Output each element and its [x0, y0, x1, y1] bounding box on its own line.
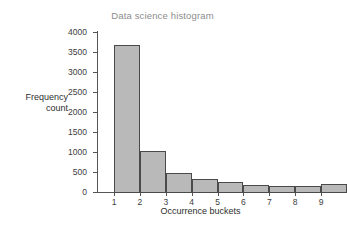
y-axis-tick-label: 3500 [68, 47, 87, 57]
y-axis-tick: 1500 [93, 132, 97, 133]
y-axis-tick: 0 [93, 192, 97, 193]
y-axis-title-line-1: Frequency [6, 92, 68, 103]
histogram-bar [321, 184, 347, 193]
y-axis-tick-label: 2500 [68, 87, 87, 97]
histogram-bar [269, 186, 295, 193]
y-axis-title: Frequency count [6, 92, 68, 114]
y-axis-tick: 500 [93, 172, 97, 173]
y-axis-tick-label: 500 [73, 167, 87, 177]
y-axis-tick: 4000 [93, 32, 97, 33]
x-axis-title: Occurrence buckets [97, 206, 304, 216]
y-axis-tick-label: 1000 [68, 147, 87, 157]
y-axis-tick-label: 4000 [68, 27, 87, 37]
histogram-bar [295, 186, 321, 193]
y-axis-tick-label: 1500 [68, 127, 87, 137]
y-axis-tick-label: 3000 [68, 67, 87, 77]
y-axis-tick: 3000 [93, 72, 97, 73]
y-axis-tick-label: 2000 [68, 107, 87, 117]
histogram-bar [114, 45, 140, 193]
plot-area: 05001000150020002500300035004000 1234567… [97, 32, 304, 192]
y-axis-tick: 2000 [93, 112, 97, 113]
histogram-bar [140, 151, 166, 193]
chart-title: Data science histogram [0, 10, 325, 21]
y-axis-tick: 2500 [93, 92, 97, 93]
x-axis-tick-label: 9 [319, 197, 324, 207]
y-axis-tick-label: 0 [82, 187, 87, 197]
histogram-bar [192, 179, 218, 193]
histogram-bar [166, 173, 192, 193]
y-axis-tick: 1000 [93, 152, 97, 153]
histogram-bar [243, 185, 269, 193]
y-axis-title-line-2: count [6, 103, 68, 114]
histogram-bar [218, 182, 244, 193]
y-axis-tick: 3500 [93, 52, 97, 53]
